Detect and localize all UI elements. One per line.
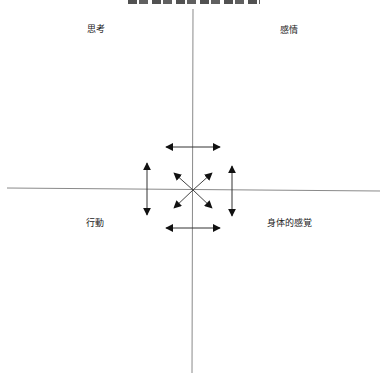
quadrant-label-behavior: 行動 — [86, 219, 104, 228]
clipped-title — [128, 0, 260, 5]
diagonal-arrow-down-right — [193, 190, 212, 208]
clipped-title-text — [128, 0, 260, 4]
quadrant-diagram: 思考 感情 行動 身体的感覚 — [0, 0, 388, 381]
diagonal-arrow-down-left — [174, 190, 193, 208]
quadrant-label-body-sensation: 身体的感覚 — [267, 219, 312, 228]
diagonal-arrow-up-right — [193, 173, 212, 190]
quadrant-label-emotion: 感情 — [280, 26, 298, 35]
diagonal-arrow-up-left — [174, 173, 193, 190]
quadrant-label-thinking: 思考 — [87, 25, 105, 34]
diagram-canvas — [0, 0, 388, 381]
